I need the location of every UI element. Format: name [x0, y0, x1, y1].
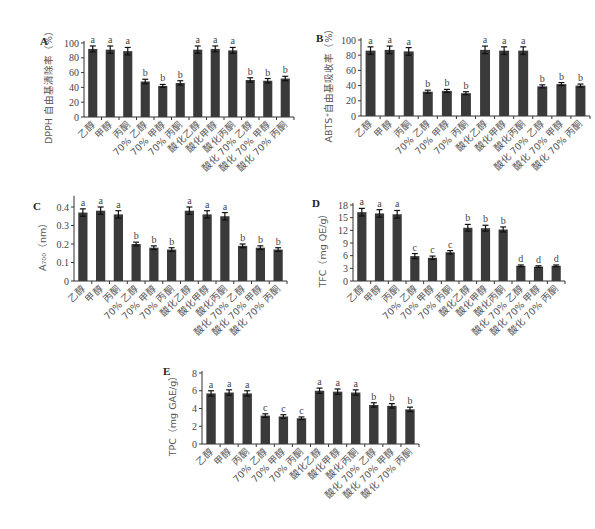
y-axis-label: TPC（mg GAE/g）: [167, 371, 178, 458]
y-tick-label: 4: [192, 403, 197, 414]
bar: [575, 86, 585, 116]
significance-label: a: [231, 35, 236, 46]
x-category-label: 甲醇: [93, 119, 115, 141]
significance-label: a: [213, 34, 218, 45]
panel-letter: D: [312, 197, 320, 209]
significance-label: b: [407, 395, 412, 406]
significance-label: a: [377, 198, 382, 209]
bar: [315, 391, 324, 444]
significance-label: a: [502, 35, 507, 46]
bar: [446, 252, 455, 281]
bar: [534, 267, 543, 281]
y-tick-label: 6: [343, 250, 348, 261]
significance-label: b: [240, 232, 245, 243]
significance-label: c: [263, 402, 268, 413]
significance-label: a: [521, 35, 526, 46]
significance-label: b: [258, 234, 263, 245]
bar: [366, 51, 376, 116]
y-tick-label: 40: [69, 82, 79, 93]
bar: [220, 216, 229, 281]
y-tick-label: 40: [346, 80, 356, 91]
significance-label: b: [465, 212, 470, 223]
significance-label: c: [281, 403, 286, 414]
y-tick-label: 0: [64, 276, 69, 287]
panel-a: 020406080100ADPPH 自由基清除率（%）a乙醇a甲醇a丙酮b70%…: [40, 26, 294, 174]
x-category-label: 甲醇: [212, 446, 234, 468]
bar: [404, 51, 414, 116]
bar: [206, 393, 215, 444]
bar: [96, 211, 105, 281]
significance-label: b: [276, 236, 281, 247]
y-tick-label: 3: [343, 263, 348, 274]
y-tick-label: 0: [74, 112, 79, 123]
y-tick-label: 100: [64, 38, 79, 49]
panel-b: 020406080100BABTS⁺自由基吸收率（%）a乙醇a甲醇a丙酮b70%…: [316, 24, 590, 173]
bar: [552, 266, 561, 281]
y-tick-label: 100: [341, 35, 356, 46]
bar: [463, 228, 472, 281]
significance-label: a: [209, 379, 214, 390]
bar: [279, 416, 288, 444]
significance-label: a: [406, 36, 411, 47]
significance-label: a: [483, 34, 488, 45]
bar: [256, 248, 265, 281]
significance-label: a: [360, 196, 365, 207]
significance-label: b: [389, 392, 394, 403]
y-tick-label: 0: [343, 276, 348, 287]
significance-label: b: [248, 66, 253, 77]
bar: [78, 213, 87, 281]
bar: [106, 50, 115, 117]
significance-label: a: [196, 34, 201, 45]
bar: [228, 50, 237, 117]
bar: [263, 81, 272, 117]
bar: [423, 92, 433, 116]
bar: [369, 405, 378, 444]
y-axis-label: ABTS⁺自由基吸收率（%）: [323, 24, 334, 143]
panel-c: 00.10.20.30.4CA₇₀₀（nm）a乙醇a甲醇a丙酮b70% 乙醇b7…: [33, 195, 287, 338]
significance-label: b: [134, 230, 139, 241]
significance-label: d: [554, 253, 559, 264]
figure: 020406080100ADPPH 自由基清除率（%）a乙醇a甲醇a丙酮b70%…: [0, 0, 595, 529]
y-tick-label: 0.1: [57, 257, 70, 268]
significance-label: b: [283, 64, 288, 75]
significance-label: d: [518, 253, 523, 264]
significance-label: a: [126, 35, 131, 46]
significance-label: b: [151, 234, 156, 245]
significance-label: b: [169, 236, 174, 247]
bar: [442, 91, 452, 116]
significance-label: a: [98, 195, 103, 206]
y-tick-label: 8: [192, 368, 197, 379]
y-tick-label: 60: [69, 67, 79, 78]
significance-label: b: [178, 69, 183, 80]
panel-e: 02468ETPC（mg GAE/g）a乙醇a甲醇a丙酮c70% 乙醇c70% …: [163, 365, 419, 501]
significance-label: b: [501, 215, 506, 226]
significance-label: b: [425, 78, 430, 89]
bar: [274, 250, 283, 281]
bar: [480, 50, 490, 116]
significance-label: b: [160, 72, 165, 83]
bar: [88, 49, 97, 117]
significance-label: a: [317, 376, 322, 387]
significance-label: a: [387, 34, 392, 45]
significance-label: c: [299, 405, 304, 416]
bar: [357, 212, 366, 281]
bar: [385, 50, 395, 116]
bar: [333, 392, 342, 444]
bar: [193, 50, 202, 117]
y-axis-label: DPPH 自由基清除率（%）: [43, 26, 54, 144]
bar: [158, 86, 167, 117]
bar: [351, 393, 360, 444]
bar: [297, 418, 306, 444]
x-category-label: 甲醇: [362, 283, 384, 305]
y-tick-label: 0.2: [57, 239, 70, 250]
significance-label: b: [540, 73, 545, 84]
bar: [499, 229, 508, 281]
bar: [428, 258, 437, 281]
bar: [176, 83, 185, 117]
significance-label: c: [413, 242, 418, 253]
y-tick-label: 0: [192, 439, 197, 450]
y-tick-label: 9: [343, 238, 348, 249]
significance-label: a: [245, 379, 250, 390]
y-tick-label: 20: [346, 95, 356, 106]
significance-label: b: [483, 213, 488, 224]
